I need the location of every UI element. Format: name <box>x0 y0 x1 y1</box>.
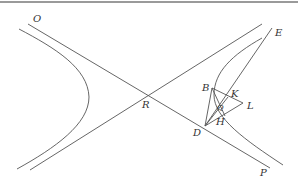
label-O: O <box>33 13 41 24</box>
label-B: B <box>201 82 209 93</box>
label-L: L <box>246 100 254 111</box>
segment-ED <box>205 28 272 126</box>
label-E: E <box>274 27 283 38</box>
label-P: P <box>259 167 267 178</box>
diagram-canvas: O R E B K L Q H D P <box>0 0 298 187</box>
label-H: H <box>215 116 225 127</box>
label-R: R <box>141 99 150 110</box>
label-Q: Q <box>217 103 224 112</box>
label-D: D <box>192 127 201 138</box>
label-K: K <box>230 88 239 99</box>
left-branch <box>17 29 89 169</box>
